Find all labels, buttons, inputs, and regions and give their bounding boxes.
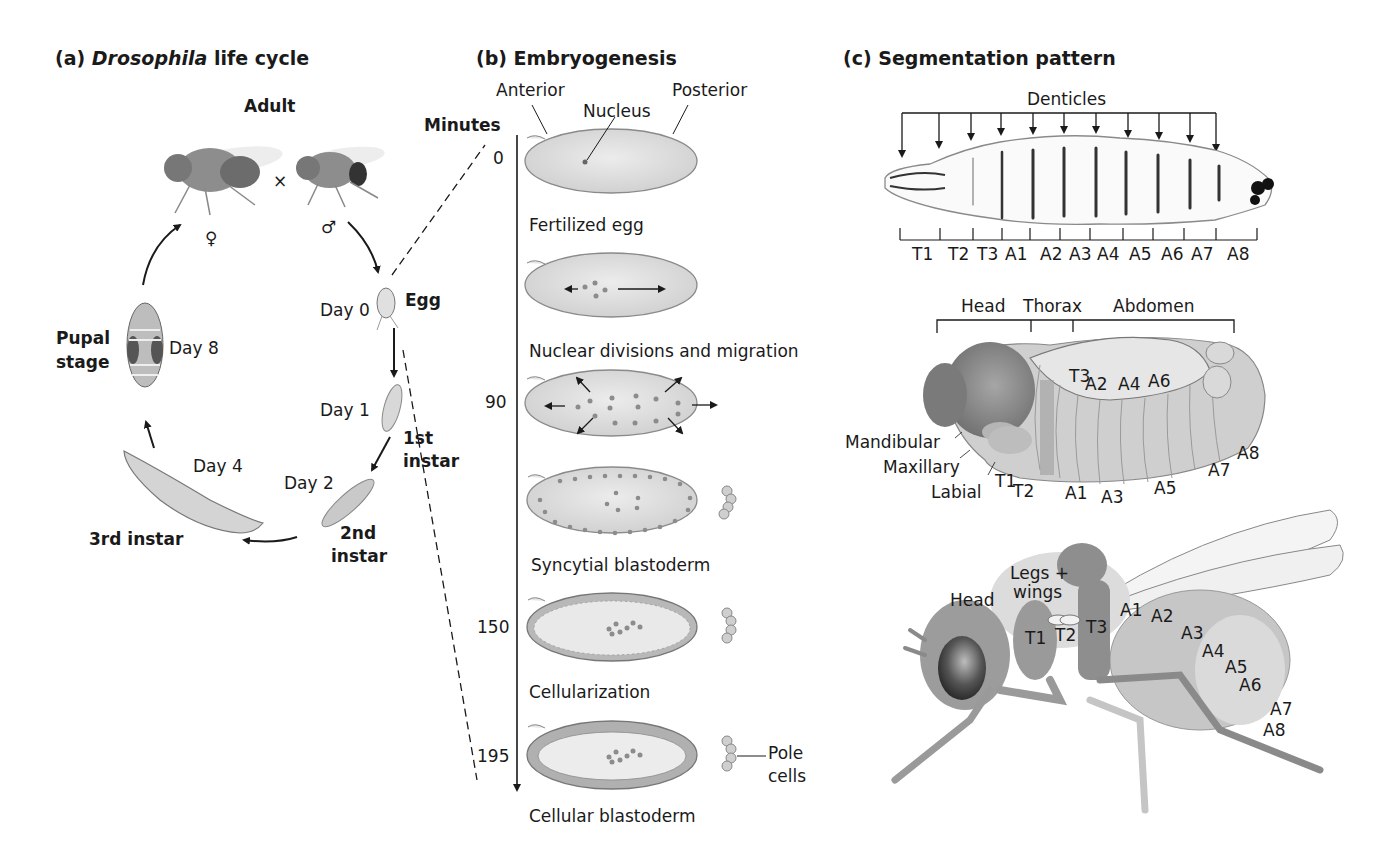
- panel-a-letter: (a): [55, 47, 85, 69]
- stage-cellularization-label: Cellularization: [529, 682, 650, 702]
- anterior-label: Anterior: [496, 80, 565, 100]
- first-instar-label-line1: 1st: [403, 428, 433, 448]
- embryo-nuclear-migration: [525, 370, 716, 436]
- embryo-label-A2: A2: [1085, 374, 1107, 394]
- region-thorax-label: Thorax: [1023, 296, 1082, 316]
- segment-ruler: [900, 228, 1257, 240]
- adult-label-A7: A7: [1270, 699, 1292, 719]
- legs-wings-label-line2: wings: [1013, 582, 1062, 602]
- pole-cells-label-line2: cells: [768, 766, 806, 786]
- first-instar-label-line2: instar: [403, 451, 459, 471]
- larva-segment-A7: A7: [1191, 244, 1213, 264]
- pupal-stage-label-line2: stage: [56, 352, 109, 372]
- adult-label-A6: A6: [1239, 675, 1261, 695]
- larva-segment-A2: A2: [1040, 244, 1062, 264]
- second-instar-label-line1: 2nd: [340, 523, 376, 543]
- adult-label-A8: A8: [1263, 720, 1285, 740]
- embryo-label-A5: A5: [1154, 478, 1176, 498]
- larva-segment-A6: A6: [1161, 244, 1183, 264]
- panel-a-title: (a) Drosophila life cycle: [55, 47, 309, 69]
- pupal-stage-label-line1: Pupal: [56, 328, 110, 348]
- first-instar-larva-icon: [378, 383, 406, 434]
- tick-195: 195: [477, 746, 509, 766]
- day4-label: Day 4: [193, 456, 243, 476]
- female-symbol: ♀: [205, 228, 217, 248]
- adult-fly-illustration: [895, 510, 1343, 810]
- embryo-syncytial-blastoderm: [527, 467, 736, 535]
- egg-label: Egg: [405, 290, 441, 310]
- larva-segment-A1: A1: [1005, 244, 1027, 264]
- male-symbol: ♂: [321, 217, 336, 237]
- adult-label-T2: T2: [1055, 625, 1076, 645]
- embryo-nuclear-divisions: [525, 253, 697, 317]
- figure-graphics: [0, 0, 1395, 855]
- stage-syncytial-blastoderm-label: Syncytial blastoderm: [531, 555, 710, 575]
- panel-b-title: (b) Embryogenesis: [476, 47, 677, 69]
- adult-label-T3: T3: [1086, 617, 1107, 637]
- cross-symbol: ×: [273, 171, 287, 191]
- posterior-label: Posterior: [672, 80, 747, 100]
- adult-label-T1: T1: [1025, 628, 1046, 648]
- adult-head-label: Head: [950, 590, 994, 610]
- day1-label: Day 1: [320, 400, 370, 420]
- region-abdomen-label: Abdomen: [1113, 296, 1194, 316]
- panel-a-subject: life cycle: [214, 47, 309, 69]
- larva-segment-A4: A4: [1097, 244, 1119, 264]
- male-fly-icon: [296, 143, 386, 207]
- embryo-label-A7: A7: [1208, 460, 1230, 480]
- egg-icon: [377, 288, 398, 330]
- embryo-cellularization: [527, 593, 736, 661]
- adult-label-A2: A2: [1151, 606, 1173, 626]
- embryo-cellular-blastoderm: [527, 721, 766, 789]
- embryo-label-A1: A1: [1065, 483, 1087, 503]
- panel-c-title: (c) Segmentation pattern: [843, 47, 1116, 69]
- minutes-axis-label: Minutes: [424, 115, 501, 135]
- embryo-label-A3: A3: [1101, 487, 1123, 507]
- larva-segment-A3: A3: [1069, 244, 1091, 264]
- adult-label-A3: A3: [1181, 623, 1203, 643]
- embryo-label-A4: A4: [1118, 374, 1140, 394]
- legs-wings-label-line1: Legs +: [1010, 563, 1069, 583]
- adult-label-A4: A4: [1202, 641, 1224, 661]
- larva-segment-T2: T2: [948, 244, 969, 264]
- day2-label: Day 2: [284, 473, 334, 493]
- adult-label: Adult: [244, 96, 295, 116]
- day8-label: Day 8: [169, 338, 219, 358]
- tick-90: 90: [485, 392, 507, 412]
- stage-nuclear-divisions-label: Nuclear divisions and migration: [529, 341, 799, 361]
- tick-0: 0: [493, 148, 504, 168]
- adult-label-A5: A5: [1225, 657, 1247, 677]
- tick-150: 150: [477, 617, 509, 637]
- second-instar-label-line2: instar: [331, 546, 387, 566]
- adult-label-A1: A1: [1120, 600, 1142, 620]
- third-instar-label: 3rd instar: [89, 529, 183, 549]
- larva-segment-T1: T1: [912, 244, 933, 264]
- pole-cells-label-line1: Pole: [768, 743, 803, 763]
- maxillary-label: Maxillary: [883, 457, 960, 477]
- pupa-icon: [127, 303, 163, 387]
- larva-segment-A5: A5: [1129, 244, 1151, 264]
- female-fly-icon: [164, 141, 284, 215]
- day0-label: Day 0: [320, 300, 370, 320]
- stage-fertilized-egg-label: Fertilized egg: [529, 215, 644, 235]
- stage-cellular-blastoderm-label: Cellular blastoderm: [529, 806, 695, 826]
- nucleus-label: Nucleus: [583, 101, 651, 121]
- embryo-label-T2: T2: [1013, 481, 1034, 501]
- embryo-label-A8: A8: [1237, 443, 1259, 463]
- denticles-label: Denticles: [1027, 89, 1106, 109]
- embryo-label-A6: A6: [1148, 371, 1170, 391]
- labial-label: Labial: [931, 482, 982, 502]
- body-region-bracket: [937, 320, 1234, 333]
- region-head-label: Head: [961, 296, 1005, 316]
- larva-segment-T3: T3: [977, 244, 998, 264]
- panel-a-species: Drosophila: [92, 47, 208, 69]
- larva-segment-A8: A8: [1227, 244, 1249, 264]
- mandibular-label: Mandibular: [845, 432, 940, 452]
